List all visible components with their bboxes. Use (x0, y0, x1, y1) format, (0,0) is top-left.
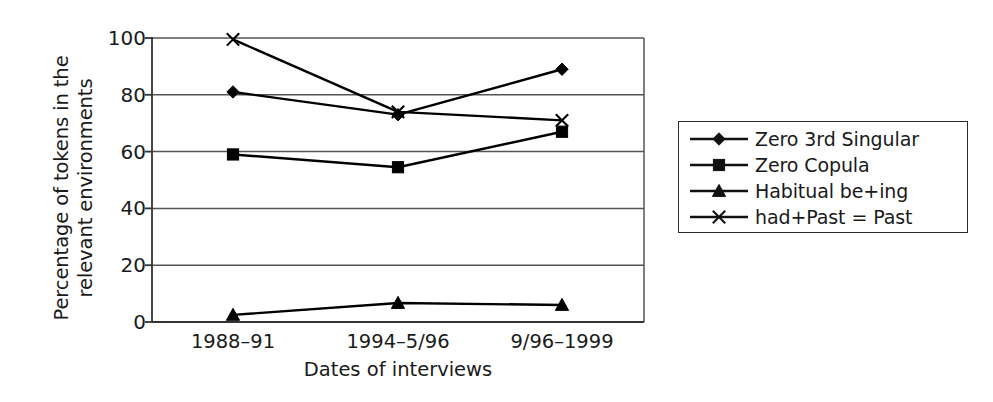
legend-marker-square-icon (688, 152, 750, 178)
series-had-past-past (227, 33, 568, 126)
data-point-had-past-past-0 (227, 33, 239, 45)
legend-marker-diamond-icon (688, 126, 750, 152)
data-point-zero-copula-2 (556, 126, 567, 137)
legend-glyph-triangle (688, 178, 750, 204)
legend-marker-diamond (713, 133, 725, 145)
data-series-layer (226, 33, 568, 320)
legend-glyph-square (688, 152, 750, 178)
legend-item-habitual-be-ing[interactable]: Habitual be+ing (679, 178, 967, 204)
data-point-zero-copula-0 (227, 149, 238, 160)
axes (152, 37, 644, 322)
gridlines (152, 38, 644, 322)
series-zero-copula (227, 126, 567, 173)
series-habitual-be-ing (226, 296, 568, 320)
legend-marker-cross-icon (688, 204, 750, 230)
legend-glyph-diamond (688, 126, 750, 152)
axis-ticks (145, 38, 152, 322)
series-line-zero-3rd-singular (233, 69, 562, 114)
legend-label: Zero 3rd Singular (750, 128, 919, 150)
legend-label: Zero Copula (750, 154, 870, 176)
series-line-had-past-past (233, 39, 562, 120)
legend-marker-triangle-icon (688, 178, 750, 204)
legend-item-had-past-past[interactable]: had+Past = Past (679, 204, 967, 230)
chart-figure: Percentage of tokens in the relevant env… (0, 0, 993, 402)
legend-marker-square (713, 159, 724, 170)
legend-glyph-cross (688, 204, 750, 230)
legend-box: Zero 3rd Singular Zero Copula Habitual b… (678, 121, 968, 233)
legend-item-zero-copula[interactable]: Zero Copula (679, 152, 967, 178)
legend-label: had+Past = Past (750, 206, 912, 228)
legend-item-zero-3rd-singular[interactable]: Zero 3rd Singular (679, 126, 967, 152)
data-point-zero-copula-1 (392, 162, 403, 173)
legend-label: Habitual be+ing (750, 180, 908, 202)
data-point-zero-3rd-singular-2 (556, 63, 568, 75)
data-point-zero-3rd-singular-0 (227, 86, 239, 98)
